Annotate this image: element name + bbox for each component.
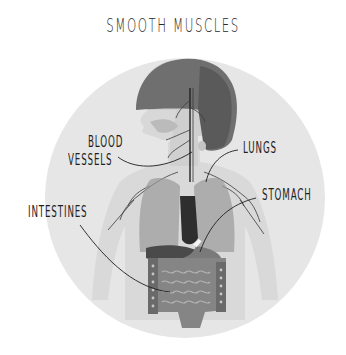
anatomy-illustration <box>0 0 346 355</box>
label-blood-vessels-line2: VESSELS <box>68 153 112 168</box>
label-intestines: INTESTINES <box>28 205 88 220</box>
heart <box>180 196 198 244</box>
label-stomach: STOMACH <box>262 188 312 203</box>
label-lungs: LUNGS <box>243 141 277 156</box>
label-blood-vessels-line1: BLOOD <box>88 135 123 150</box>
